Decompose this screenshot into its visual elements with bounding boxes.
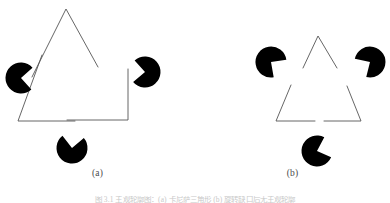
pacman-disc-left: [5, 62, 32, 93]
pacman-disc-right: [355, 47, 386, 78]
panel-a-discs: [5, 56, 160, 163]
panel-b-triangle-corners: [276, 36, 361, 121]
triangle-corner-bottom-right: [324, 86, 361, 121]
figure-caption: 图 3.1 主观轮廓图：(a) 卡尼萨三角形 (b) 旋转缺口后无主观轮廓: [0, 196, 390, 203]
triangle-corner-apex: [303, 36, 337, 68]
figure-panel-a: (a): [0, 0, 195, 203]
panel-b-discs: [256, 46, 386, 166]
panel-b-canvas: [195, 0, 390, 168]
figure-root: (a) (b) 图 3.1 主观轮廓图：(a) 卡尼萨三角形 (b) 旋转缺口后…: [0, 0, 390, 203]
pacman-disc-right: [133, 56, 160, 87]
triangle-corner-bottom-left: [276, 85, 315, 121]
pacman-disc-bottom: [302, 135, 332, 166]
pacman-disc-bottom: [56, 136, 87, 164]
pacman-disc-left: [256, 46, 287, 77]
panel-a-triangle-corners: [18, 9, 128, 121]
figure-panel-b: (b): [195, 0, 390, 203]
figure-caption-text: 图 3.1 主观轮廓图：(a) 卡尼萨三角形 (b) 旋转缺口后无主观轮廓: [0, 196, 390, 203]
triangle-corner-apex: [32, 9, 98, 77]
panel-a-label: (a): [0, 168, 195, 178]
triangle-corner-bottom-right: [67, 69, 128, 120]
panel-a-canvas: [0, 0, 195, 168]
panel-b-label: (b): [195, 168, 390, 178]
